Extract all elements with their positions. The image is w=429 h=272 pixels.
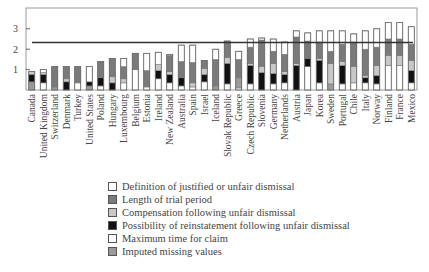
- chart-legend: Definition of justified or unfair dismis…: [108, 180, 350, 258]
- bar-segment: [98, 86, 104, 90]
- bar-segment: [178, 86, 184, 90]
- bar-segment: [259, 67, 265, 73]
- legend-swatch: [108, 208, 117, 217]
- bar-segment: [121, 79, 127, 83]
- x-tick-label: Hungary: [108, 94, 118, 127]
- bar-segment: [40, 73, 46, 75]
- x-tick-label: Czech Republic: [246, 94, 256, 154]
- x-tick-label: Japan: [303, 94, 313, 116]
- bar-segment: [316, 31, 322, 42]
- bar-segment: [408, 44, 414, 60]
- bar-segment: [190, 83, 196, 87]
- bar-segment: [167, 83, 173, 90]
- bar-segment: [178, 61, 184, 77]
- bar-segment: [75, 67, 81, 83]
- bar-segment: [397, 66, 403, 90]
- bar-segment: [63, 82, 69, 90]
- legend-label: Definition of justified or unfair dismis…: [122, 180, 294, 193]
- bar-segment: [178, 45, 184, 61]
- bar-segment: [408, 27, 414, 44]
- x-tick-label: Finland: [384, 94, 394, 123]
- bar-segment: [282, 72, 288, 75]
- bar-segment: [316, 60, 322, 82]
- bar-segment: [305, 33, 311, 41]
- bar-segment: [144, 87, 150, 90]
- bar-segment: [328, 51, 334, 63]
- bar-segment: [351, 42, 357, 66]
- legend-item: Definition of justified or unfair dismis…: [108, 180, 350, 193]
- bar-segment: [397, 23, 403, 39]
- bar-segment: [247, 84, 253, 90]
- bar-segment: [201, 82, 207, 90]
- x-tick-label: Korea: [315, 93, 325, 117]
- x-tick-label: Israel: [200, 94, 210, 115]
- bar-segment: [293, 37, 299, 64]
- bar-segment: [63, 79, 69, 82]
- bar-segment: [155, 79, 161, 90]
- bar-segment: [397, 55, 403, 65]
- bar-segment: [270, 51, 276, 63]
- bar-segment: [328, 63, 334, 83]
- bar-segment: [86, 67, 92, 82]
- bar-segment: [362, 78, 368, 83]
- bar-segment: [259, 73, 265, 90]
- x-tick-label: Turkey: [73, 94, 83, 121]
- bar-segment: [121, 83, 127, 90]
- bar-segment: [155, 71, 161, 79]
- bar-segment: [29, 82, 35, 90]
- bar-segment: [144, 71, 150, 87]
- bar-segment: [408, 60, 414, 70]
- bar-segment: [305, 67, 311, 90]
- legend-label: Possibility of reinstatement following u…: [122, 219, 350, 232]
- bar-segment: [132, 53, 138, 69]
- x-tick-label: Iceland: [211, 94, 221, 122]
- bar-segment: [362, 76, 368, 78]
- bar-segment: [247, 47, 253, 63]
- legend-item: Length of trial period: [108, 193, 350, 206]
- bar-segment: [201, 75, 207, 82]
- bar-segment: [224, 63, 230, 83]
- bar-segment: [339, 84, 345, 90]
- bar-segment: [224, 41, 230, 57]
- bar-segment: [339, 66, 345, 84]
- bar-segment: [63, 67, 69, 79]
- bar-segment: [385, 55, 391, 65]
- bar-segment: [385, 66, 391, 90]
- bar-segment: [293, 63, 299, 65]
- x-tick-label: Ireland: [154, 94, 164, 121]
- legend-item: Possibility of reinstatement following u…: [108, 219, 350, 232]
- legend-swatch: [108, 234, 117, 243]
- bar-segment: [213, 86, 219, 90]
- bar-segment: [155, 65, 161, 71]
- bar-segment: [190, 45, 196, 62]
- bar-segment: [40, 75, 46, 83]
- bar-segment: [316, 58, 322, 60]
- bar-segment: [167, 75, 173, 83]
- x-tick-label: United States: [85, 94, 95, 145]
- x-tick-label: Poland: [96, 94, 106, 121]
- bar-segment: [167, 55, 173, 71]
- x-tick-label: Portugal: [338, 94, 348, 127]
- bar-segment: [374, 66, 380, 76]
- bar-segment: [385, 39, 391, 55]
- bar-segment: [40, 70, 46, 73]
- x-tick-label: Spain: [188, 94, 198, 116]
- x-tick-label: Germany: [269, 94, 279, 130]
- x-tick-label: France: [395, 94, 405, 120]
- bar-segment: [86, 86, 92, 90]
- x-tick-label: United Kingdom: [39, 93, 49, 158]
- bar-segment: [29, 75, 35, 82]
- x-tick-label: Canada: [27, 93, 37, 122]
- bar-segment: [328, 31, 334, 51]
- bar-segment: [52, 67, 58, 87]
- bar-segment: [270, 63, 276, 73]
- bar-segment: [397, 39, 403, 55]
- bar-segment: [351, 83, 357, 90]
- bar-segment: [109, 58, 115, 76]
- bar-segment: [374, 47, 380, 65]
- x-tick-label: Mexico: [407, 94, 417, 123]
- bar-segment: [362, 49, 368, 76]
- bar-segment: [236, 59, 242, 77]
- x-tick-label: Luxembourg: [119, 94, 129, 143]
- bar-segment: [121, 58, 127, 66]
